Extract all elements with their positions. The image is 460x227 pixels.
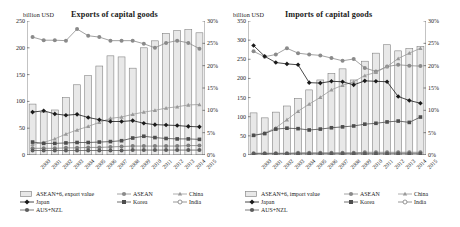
x-tick-label: 2015 (206, 158, 218, 170)
y-axis-unit-label-exports: billion USD (23, 11, 54, 18)
x-tick-label: 2005 (315, 158, 327, 170)
x-tick-label: 2011 (161, 158, 173, 170)
x-tick-label: 2009 (360, 158, 372, 170)
y2-tick-label: 30% (428, 18, 439, 24)
y-tick-label: 150 (216, 95, 246, 101)
x-tick-label: 2010 (371, 158, 383, 170)
legend-label-korea: Korea (132, 199, 147, 205)
legend-marker-india-icon (172, 198, 188, 206)
legend-label-india: India (188, 199, 201, 205)
y-tick-label: 100 (0, 98, 25, 104)
y2-tick-label: 10% (207, 107, 218, 113)
x-tick-label: 2002 (61, 158, 73, 170)
chart-title-imports: Imports of capital goods (285, 10, 372, 19)
y2-tick-label: 20% (207, 63, 218, 69)
x-tick-label: 2013 (404, 158, 416, 170)
legend-marker-ausnzl-icon (244, 206, 260, 214)
x-tick-label: 2003 (72, 158, 84, 170)
x-tick-label: 2000 (39, 158, 51, 170)
y2-tick-label: 0% (428, 152, 436, 158)
legend-marker-asean-icon (343, 190, 359, 198)
x-tick-label: 2003 (293, 158, 305, 170)
legend-marker-india-icon (397, 198, 413, 206)
x-tick-label: 2014 (416, 158, 428, 170)
y2-tick-label: 20% (428, 63, 439, 69)
legend-label-bar: ASEAN+6, export value (35, 191, 94, 197)
legend-label-china: China (413, 191, 428, 197)
x-tick-label: 2007 (117, 158, 129, 170)
x-tick-label: 2015 (427, 158, 439, 170)
plot-svg-imports (248, 21, 426, 155)
legend-label-ausnzl: AUS+NZL (35, 207, 63, 213)
x-tick-label: 2004 (304, 158, 316, 170)
legend-label-japan: Japan (35, 199, 49, 205)
legend-label-korea: Korea (359, 199, 374, 205)
chart-panel-imports: billion USD Imports of capital goods 050… (230, 0, 460, 227)
legend-marker-ausnzl-icon (19, 206, 35, 214)
plot-area-exports (27, 21, 205, 155)
y2-tick-label: 0% (207, 152, 215, 158)
x-tick-label: 2009 (139, 158, 151, 170)
y-tick-label: 200 (0, 45, 25, 51)
y-tick-label: 0 (0, 152, 25, 158)
x-tick-label: 2004 (83, 158, 95, 170)
x-tick-label: 2007 (338, 158, 350, 170)
x-tick-label: 2002 (282, 158, 294, 170)
x-tick-label: 2010 (150, 158, 162, 170)
legend-marker-korea-icon (116, 198, 132, 206)
y-tick-label: 350 (216, 18, 246, 24)
y-tick-label: 150 (0, 72, 25, 78)
y2-tick-label: 15% (428, 85, 439, 91)
x-tick-label: 2000 (260, 158, 272, 170)
y-tick-label: 300 (216, 37, 246, 43)
x-tick-label: 2006 (327, 158, 339, 170)
x-tick-label: 2001 (50, 158, 62, 170)
x-tick-label: 2005 (94, 158, 106, 170)
legend-marker-korea-icon (343, 198, 359, 206)
legend-marker-asean-icon (116, 190, 132, 198)
legend-label-japan: Japan (260, 199, 274, 205)
x-tick-label: 2013 (183, 158, 195, 170)
legend-marker-china-icon (172, 190, 188, 198)
legend-exports: ASEAN+6, export value ASEAN China (19, 190, 224, 214)
y-tick-label: 250 (0, 18, 25, 24)
x-tick-label: 2008 (128, 158, 140, 170)
legend-label-india: India (413, 199, 426, 205)
y2-tick-label: 15% (207, 85, 218, 91)
y-tick-label: 0 (216, 152, 246, 158)
plot-svg-exports (27, 21, 205, 155)
legend-swatch-bar-icon (19, 190, 35, 198)
x-tick-label: 2001 (271, 158, 283, 170)
y-tick-label: 50 (0, 125, 25, 131)
x-tick-label: 2011 (382, 158, 394, 170)
y2-tick-label: 5% (207, 130, 215, 136)
legend-marker-china-icon (397, 190, 413, 198)
legend-label-bar: ASEAN+6, import value (260, 191, 320, 197)
y-tick-label: 250 (216, 56, 246, 62)
legend-marker-japan-icon (244, 198, 260, 206)
chart-title-exports: Exports of capital goods (71, 10, 158, 19)
legend-label-asean: ASEAN (132, 191, 153, 197)
legend-marker-japan-icon (19, 198, 35, 206)
legend-label-asean: ASEAN (359, 191, 380, 197)
x-tick-label: 2008 (349, 158, 361, 170)
plot-area-imports (248, 21, 426, 155)
y-axis-unit-label-imports: billion USD (233, 11, 264, 18)
y-tick-label: 200 (216, 75, 246, 81)
legend-imports: ASEAN+6, import value ASEAN China (244, 190, 449, 214)
x-tick-label: 2012 (172, 158, 184, 170)
x-tick-label: 2006 (106, 158, 118, 170)
y2-tick-label: 10% (428, 107, 439, 113)
y2-tick-label: 25% (428, 40, 439, 46)
y2-tick-label: 5% (428, 130, 436, 136)
dual-chart-figure: billion USD Exports of capital goods 050… (0, 0, 460, 227)
y-tick-label: 50 (216, 133, 246, 139)
x-tick-label: 2014 (195, 158, 207, 170)
legend-label-china: China (188, 191, 203, 197)
x-tick-label: 2012 (393, 158, 405, 170)
chart-panel-exports: billion USD Exports of capital goods 050… (0, 0, 230, 227)
legend-swatch-bar-icon (244, 190, 260, 198)
legend-label-ausnzl: AUS+NZL (260, 207, 288, 213)
y-tick-label: 100 (216, 114, 246, 120)
